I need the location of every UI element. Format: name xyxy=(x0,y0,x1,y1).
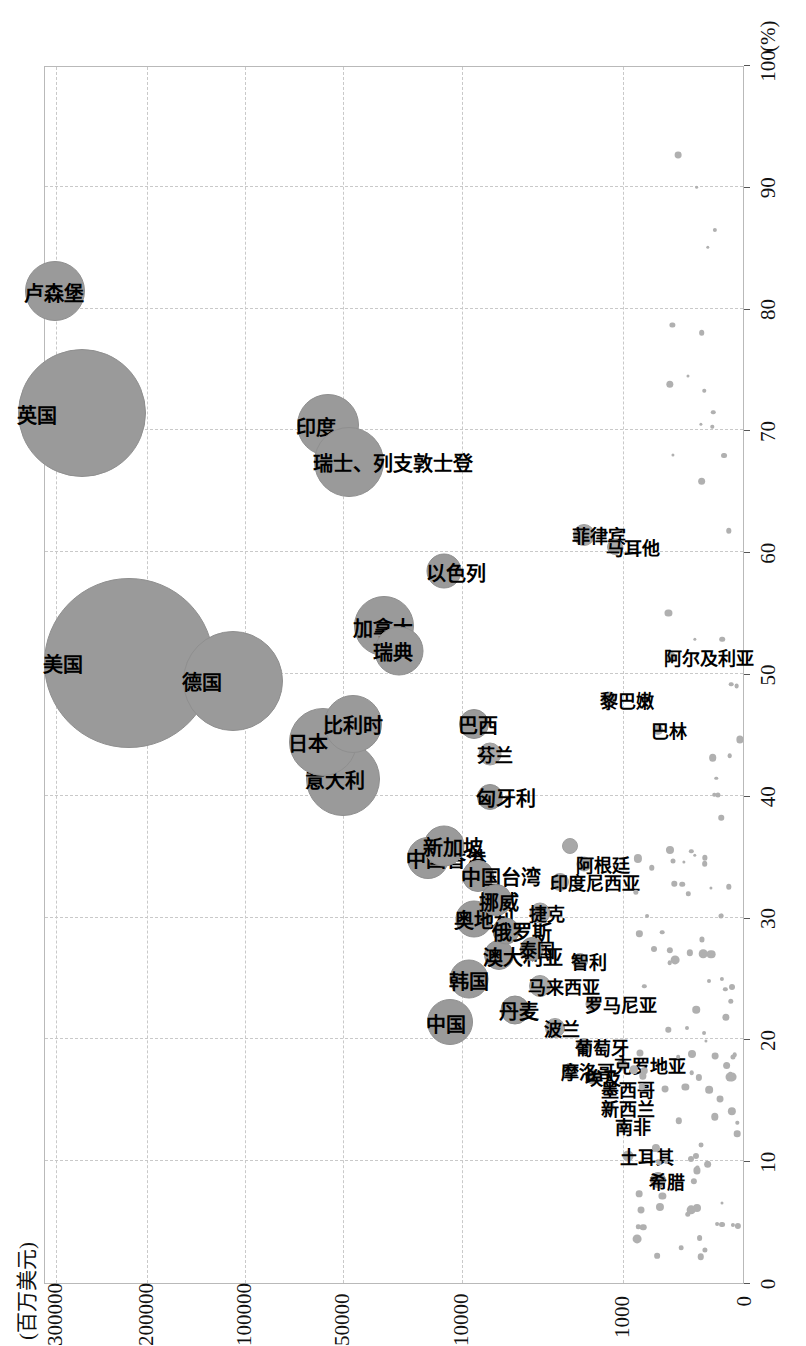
data-bubble-unlabeled[interactable] xyxy=(717,1095,724,1102)
data-bubble-unlabeled[interactable] xyxy=(692,1006,700,1014)
data-bubble-unlabeled[interactable] xyxy=(728,1073,737,1082)
data-bubble-unlabeled[interactable] xyxy=(714,776,718,780)
data-bubble-unlabeled[interactable] xyxy=(699,330,705,336)
bubble-label: 智利 xyxy=(571,954,607,972)
bubble-label: 巴西 xyxy=(458,716,498,736)
data-bubble-unlabeled[interactable] xyxy=(699,1143,704,1148)
bubble-label: 希腊 xyxy=(649,1174,685,1192)
y-axis-tick-label: 0 xyxy=(732,1296,757,1346)
x-axis-tick-mark xyxy=(744,1283,750,1284)
data-bubble-unlabeled[interactable] xyxy=(679,1245,684,1250)
x-gridline xyxy=(45,429,743,430)
data-bubble-unlabeled[interactable] xyxy=(721,1202,724,1205)
bubble-label: 泰国 xyxy=(519,942,555,960)
x-gridline xyxy=(45,1038,743,1039)
data-bubble[interactable] xyxy=(562,838,578,854)
x-axis-tick-mark xyxy=(744,552,750,553)
x-axis-tick-label: 100 xyxy=(756,50,781,82)
data-bubble-unlabeled[interactable] xyxy=(719,1221,725,1227)
bubble-label: 印度尼西亚 xyxy=(550,875,640,893)
data-bubble-unlabeled[interactable] xyxy=(640,1224,647,1231)
bubble-label: 黎巴嫩 xyxy=(600,693,654,711)
bubble-label: 摩洛哥 xyxy=(561,1064,615,1082)
data-bubble-unlabeled[interactable] xyxy=(636,1190,643,1197)
x-axis-tick-mark xyxy=(744,430,750,431)
data-bubble-unlabeled[interactable] xyxy=(685,1026,689,1030)
data-bubble-unlabeled[interactable] xyxy=(707,950,716,959)
bubble-label: 南非 xyxy=(615,1119,651,1137)
bubble-label: 巴林 xyxy=(651,723,687,741)
data-bubble-unlabeled[interactable] xyxy=(705,1086,713,1094)
x-axis-tick-mark xyxy=(744,65,750,66)
y-gridline xyxy=(343,67,344,1283)
data-bubble-unlabeled[interactable] xyxy=(665,609,672,616)
data-bubble-unlabeled[interactable] xyxy=(671,955,680,964)
bubble-label: 美国 xyxy=(43,655,83,675)
data-bubble-unlabeled[interactable] xyxy=(671,859,676,864)
data-bubble-unlabeled[interactable] xyxy=(699,949,708,958)
data-bubble-unlabeled[interactable] xyxy=(654,1253,660,1259)
data-bubble-unlabeled[interactable] xyxy=(734,1130,741,1137)
y-gridline xyxy=(462,67,463,1283)
data-bubble-unlabeled[interactable] xyxy=(727,754,732,759)
data-bubble-unlabeled[interactable] xyxy=(729,984,735,990)
data-bubble-unlabeled[interactable] xyxy=(702,1031,706,1035)
x-axis-tick-label: 30 xyxy=(756,908,781,929)
x-axis-tick-label: 80 xyxy=(756,299,781,320)
data-bubble-unlabeled[interactable] xyxy=(637,1050,644,1057)
data-bubble-unlabeled[interactable] xyxy=(698,478,706,486)
data-bubble-unlabeled[interactable] xyxy=(702,861,708,867)
data-bubble-unlabeled[interactable] xyxy=(638,1206,645,1213)
data-bubble-unlabeled[interactable] xyxy=(677,1055,681,1059)
data-bubble-unlabeled[interactable] xyxy=(715,1222,719,1226)
bubble-label: 丹麦 xyxy=(499,1002,539,1022)
data-bubble-unlabeled[interactable] xyxy=(693,1204,701,1212)
bubble-label: 日本 xyxy=(288,734,328,754)
data-bubble-unlabeled[interactable] xyxy=(707,979,711,983)
bubble-label: 马耳他 xyxy=(606,540,660,558)
data-bubble-unlabeled[interactable] xyxy=(720,637,726,643)
x-axis-tick-label: 70 xyxy=(756,421,781,442)
data-bubble-unlabeled[interactable] xyxy=(722,452,728,458)
x-axis-tick-label: 60 xyxy=(756,543,781,564)
data-bubble-unlabeled[interactable] xyxy=(660,930,665,935)
data-bubble-unlabeled[interactable] xyxy=(718,913,723,918)
data-bubble-unlabeled[interactable] xyxy=(690,1071,695,1076)
bubble-label: 瑞士、列支敦士登 xyxy=(313,454,473,474)
data-bubble-unlabeled[interactable] xyxy=(695,186,699,190)
x-axis-tick-mark xyxy=(744,1039,750,1040)
data-bubble-unlabeled[interactable] xyxy=(697,1254,704,1261)
data-bubble-unlabeled[interactable] xyxy=(679,882,685,888)
x-axis-tick-mark xyxy=(744,187,750,188)
x-axis-tick-mark xyxy=(744,674,750,675)
data-bubble-unlabeled[interactable] xyxy=(675,152,682,159)
data-bubble-unlabeled[interactable] xyxy=(651,946,657,952)
bubble-label: 中国 xyxy=(426,1015,466,1035)
x-axis-tick-mark xyxy=(744,1161,750,1162)
bubble-label: 瑞典 xyxy=(373,643,413,663)
data-bubble-unlabeled[interactable] xyxy=(666,848,670,852)
bubble-label: 德国 xyxy=(182,674,222,694)
data-bubble-unlabeled[interactable] xyxy=(709,754,717,762)
bubble-label: 韩国 xyxy=(449,972,489,992)
data-bubble-unlabeled[interactable] xyxy=(656,1161,661,1166)
data-bubble-unlabeled[interactable] xyxy=(697,1235,703,1241)
bubble-label: 英国 xyxy=(17,406,57,426)
x-axis-tick-label: 40 xyxy=(756,786,781,807)
data-bubble-unlabeled[interactable] xyxy=(645,914,649,918)
data-bubble-unlabeled[interactable] xyxy=(723,1062,731,1070)
data-bubble-unlabeled[interactable] xyxy=(632,1235,641,1244)
data-bubble-unlabeled[interactable] xyxy=(662,1085,669,1092)
y-axis-tick-label: 200000 xyxy=(133,1296,158,1346)
data-bubble-unlabeled[interactable] xyxy=(688,1050,696,1058)
data-bubble-unlabeled[interactable] xyxy=(704,1160,712,1168)
bubble-label: 芬兰 xyxy=(477,747,513,765)
data-bubble-unlabeled[interactable] xyxy=(712,1052,719,1059)
data-bubble-unlabeled[interactable] xyxy=(729,682,734,687)
x-gridline xyxy=(45,917,743,918)
x-axis-tick-mark xyxy=(744,918,750,919)
data-bubble-unlabeled[interactable] xyxy=(664,1160,668,1164)
data-bubble-unlabeled[interactable] xyxy=(693,1153,699,1159)
data-bubble-unlabeled[interactable] xyxy=(734,683,739,688)
bubble-label: 克罗地亚 xyxy=(614,1058,686,1076)
